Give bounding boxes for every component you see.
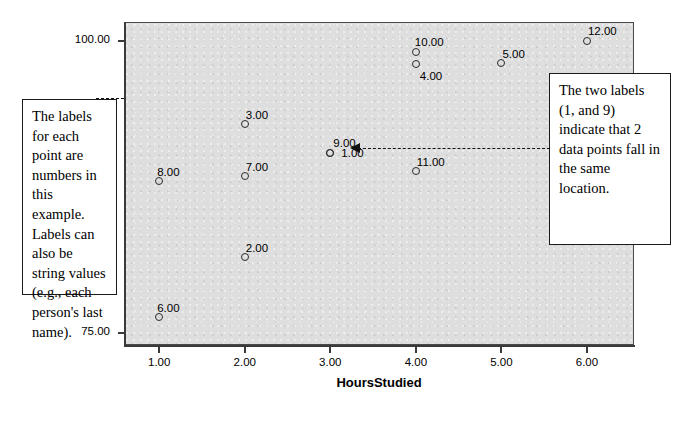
data-point-label: 3.00 <box>246 109 268 121</box>
scatterplot-figure: 100.0075.00 1.002.003.004.005.006.00 6.0… <box>0 0 680 421</box>
x-tick-label: 2.00 <box>215 356 275 368</box>
callout-labels-explanation-text: The labels for each point are numbers in… <box>32 107 108 342</box>
data-point-marker <box>241 120 249 128</box>
data-point-label: 8.00 <box>157 166 179 178</box>
callout-overlap-explanation: The two labels (1, and 9) indicate that … <box>549 73 671 245</box>
x-tick-mark <box>415 347 417 353</box>
data-point-label: 7.00 <box>246 161 268 173</box>
x-tick-mark <box>329 347 331 353</box>
annotation-arrow-head-icon <box>350 143 360 153</box>
data-point-marker <box>412 167 420 175</box>
y-tick-label: 100.00 <box>0 33 119 45</box>
data-point-label: 10.00 <box>415 36 444 48</box>
x-tick-mark <box>586 347 588 353</box>
data-point-label: 6.00 <box>157 302 179 314</box>
x-tick-label: 4.00 <box>386 356 446 368</box>
annotation-arrow-line <box>358 148 550 149</box>
data-point-marker <box>412 60 420 68</box>
x-axis-title-text: HoursStudied <box>336 375 421 390</box>
callout-labels-explanation: The labels for each point are numbers in… <box>22 99 117 295</box>
data-point-label: 11.00 <box>417 156 445 168</box>
data-point-label: 2.00 <box>246 242 268 254</box>
x-tick-mark <box>244 347 246 353</box>
left-callout-leader-line <box>96 98 124 99</box>
data-point-label: 4.00 <box>420 70 442 82</box>
x-tick-mark <box>500 347 502 353</box>
data-point-label: 12.00 <box>588 25 617 37</box>
callout-overlap-explanation-text: The two labels (1, and 9) indicate that … <box>559 81 662 199</box>
data-point-marker <box>583 37 591 45</box>
x-axis-title: HoursStudied <box>0 375 680 390</box>
x-axis-line <box>124 345 635 347</box>
data-point-marker <box>241 253 249 261</box>
x-tick-mark <box>158 347 160 353</box>
x-tick-label: 6.00 <box>557 356 617 368</box>
y-axis-line <box>124 22 126 346</box>
x-tick-label: 5.00 <box>471 356 531 368</box>
data-point-label: 5.00 <box>502 48 524 60</box>
x-tick-label: 1.00 <box>129 356 189 368</box>
x-tick-label: 3.00 <box>300 356 360 368</box>
